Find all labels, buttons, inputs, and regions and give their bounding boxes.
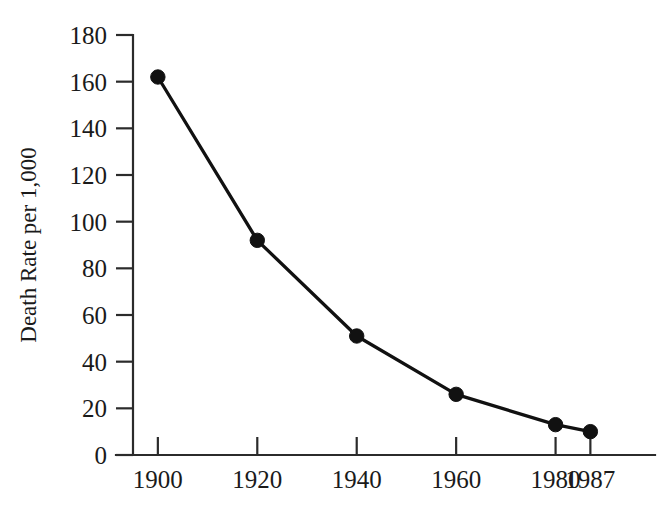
chart-figure: 020406080100120140160180 190019201940196… — [0, 0, 672, 508]
x-tick-label-1920: 1920 — [232, 466, 282, 493]
y-axis-tick-labels: 020406080100120140160180 — [70, 22, 108, 469]
y-tick-label-100: 100 — [70, 209, 108, 236]
data-point-1920 — [250, 233, 264, 247]
y-tick-label-60: 60 — [82, 302, 107, 329]
x-tick-label-1900: 1900 — [133, 466, 183, 493]
y-axis-title: Death Rate per 1,000 — [16, 147, 41, 342]
y-axis-tick-marks — [116, 35, 133, 455]
data-point-1940 — [350, 329, 364, 343]
x-tick-label-1940: 1940 — [332, 466, 382, 493]
y-tick-label-80: 80 — [82, 255, 107, 282]
x-tick-label-1960: 1960 — [431, 466, 481, 493]
data-series-markers — [151, 70, 598, 439]
y-tick-label-160: 160 — [70, 69, 108, 96]
y-tick-label-40: 40 — [82, 349, 107, 376]
x-axis-tick-marks — [158, 437, 591, 455]
y-tick-label-140: 140 — [70, 115, 108, 142]
data-point-1980 — [548, 417, 562, 431]
x-axis-tick-labels: 190019201940196019801987 — [133, 466, 616, 493]
y-tick-label-180: 180 — [70, 22, 108, 49]
data-point-1987 — [583, 424, 597, 438]
data-point-1960 — [449, 387, 463, 401]
data-point-1900 — [151, 70, 165, 84]
y-tick-label-120: 120 — [70, 162, 108, 189]
y-tick-label-0: 0 — [95, 442, 108, 469]
y-tick-label-20: 20 — [82, 395, 107, 422]
data-series-line — [158, 77, 591, 432]
x-tick-label-1987: 1987 — [565, 466, 615, 493]
line-chart-plot: 020406080100120140160180 190019201940196… — [0, 0, 672, 508]
